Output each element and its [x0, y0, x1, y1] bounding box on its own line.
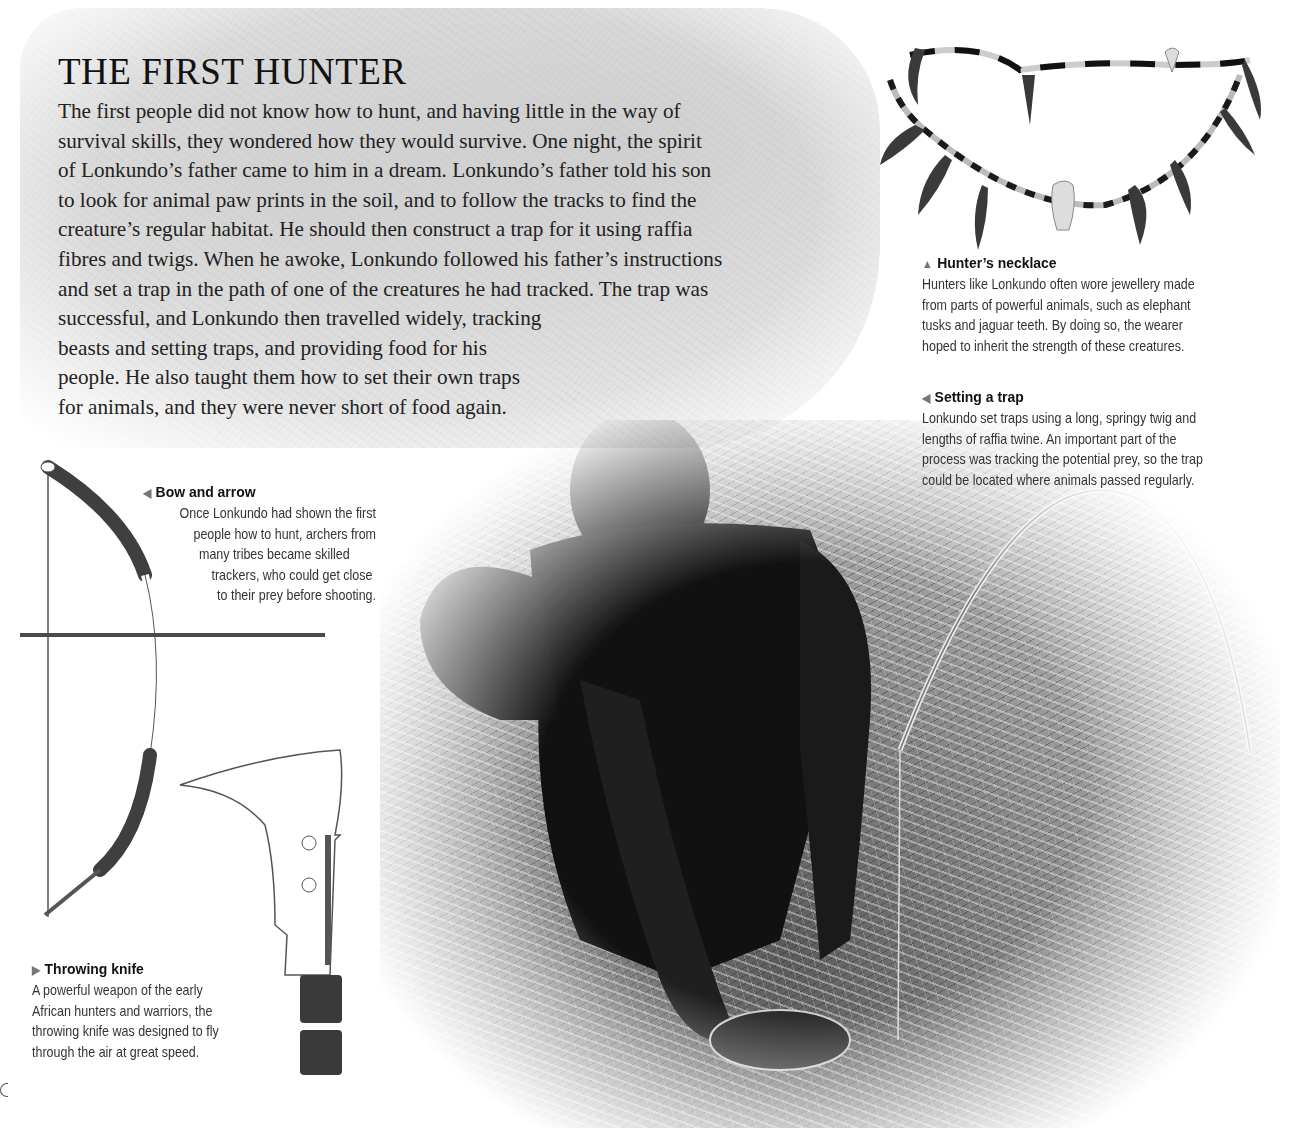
caption-title-text: Hunter’s necklace — [937, 254, 1056, 271]
caption-line: people how to hunt, archers from — [147, 524, 376, 545]
knife-caption: ▶Throwing knife A powerful weapon of the… — [32, 959, 244, 1062]
caption-line: lengths of raffia twine. An important pa… — [922, 429, 1203, 450]
caption-line: A powerful weapon of the early — [32, 980, 219, 1001]
caption-line: to their prey before shooting. — [147, 585, 376, 606]
caption-line: Lonkundo set traps using a long, springy… — [922, 408, 1203, 429]
hunter-photo — [380, 420, 1280, 1128]
caption-line: African hunters and warriors, the — [32, 1001, 219, 1022]
story-line: survival skills, they wondered how they … — [58, 127, 858, 157]
story-line: beasts and setting traps, and providing … — [58, 334, 858, 364]
page-edge-mark — [0, 1083, 8, 1097]
trap-caption: ◀Setting a trap Lonkundo set traps using… — [922, 387, 1241, 490]
caption-line: through the air at great speed. — [32, 1042, 219, 1063]
left-arrow-icon: ◀ — [922, 391, 930, 405]
caption-title-text: Bow and arrow — [156, 483, 256, 500]
caption-line: process was tracking the potential prey,… — [922, 449, 1203, 470]
story-line: successful, and Lonkundo then travelled … — [58, 304, 858, 334]
story-line: of Lonkundo’s father came to him in a dr… — [58, 156, 858, 186]
caption-title: ◀Bow and arrow — [116, 482, 350, 503]
story-line: and set a trap in the path of one of the… — [58, 275, 858, 305]
caption-line: tusks and jaguar teeth. By doing so, the… — [922, 315, 1195, 336]
right-arrow-icon: ▶ — [32, 963, 40, 977]
up-arrow-icon: ▲ — [922, 257, 933, 271]
left-arrow-icon: ◀ — [143, 486, 151, 500]
necklace-caption: ▲Hunter’s necklace Hunters like Lonkundo… — [922, 253, 1232, 356]
story-line: creature’s regular habitat. He should th… — [58, 215, 858, 245]
bow-caption: ◀Bow and arrow Once Lonkundo had shown t… — [116, 482, 376, 606]
caption-title: ◀Setting a trap — [922, 387, 1209, 408]
caption-line: Once Lonkundo had shown the first — [147, 503, 376, 524]
story-line: people. He also taught them how to set t… — [58, 363, 858, 393]
caption-line: many tribes became skilled — [147, 544, 376, 565]
caption-line: could be located where animals passed re… — [922, 470, 1203, 491]
story-line: for animals, and they were never short o… — [58, 393, 858, 423]
caption-title: ▲Hunter’s necklace — [922, 253, 1201, 274]
story-line: fibres and twigs. When he awoke, Lonkund… — [58, 245, 858, 275]
main-story: THE FIRST HUNTER The first people did no… — [58, 50, 858, 423]
story-line: The first people did not know how to hun… — [58, 97, 858, 127]
caption-line: throwing knife was designed to fly — [32, 1021, 219, 1042]
necklace-image — [870, 20, 1270, 250]
caption-line: from parts of powerful animals, such as … — [922, 295, 1195, 316]
caption-title-text: Throwing knife — [45, 960, 144, 977]
page-title: THE FIRST HUNTER — [58, 50, 858, 94]
caption-line: trackers, who could get close — [147, 565, 376, 586]
caption-title-text: Setting a trap — [935, 388, 1024, 405]
hunter-figure-icon — [380, 420, 1280, 1128]
story-line: to look for animal paw prints in the soi… — [58, 186, 858, 216]
caption-title: ▶Throwing knife — [32, 959, 223, 980]
caption-line: Hunters like Lonkundo often wore jewelle… — [922, 274, 1195, 295]
caption-line: hoped to inherit the strength of these c… — [922, 336, 1195, 357]
